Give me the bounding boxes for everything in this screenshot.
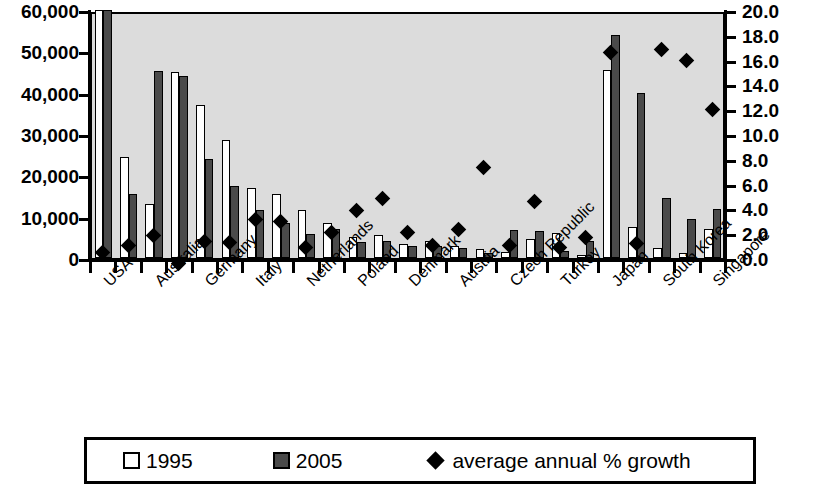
bar-2005-3 <box>179 76 188 258</box>
legend-item-2005: 2005 <box>273 449 343 473</box>
y-tick-label-left: 60,000 <box>21 2 79 21</box>
y-tick-label-right: 6.0 <box>742 176 768 195</box>
category-label-italy: Italy <box>253 257 285 289</box>
x-tick <box>445 262 448 273</box>
y-tick-label-right: 12.0 <box>742 101 779 120</box>
bar-2005-12 <box>408 246 417 258</box>
x-tick <box>394 262 397 273</box>
x-tick <box>140 262 143 273</box>
white-square-icon <box>123 452 140 469</box>
y-tick-left <box>79 176 91 179</box>
x-tick <box>699 262 702 273</box>
x-tick <box>292 262 295 273</box>
bar-1995-20 <box>603 70 612 258</box>
chart-root: 010,00020,00030,00040,00050,00060,000 0.… <box>0 0 839 491</box>
black-diamond-icon <box>427 451 445 469</box>
y-tick-label-right: 10.0 <box>742 126 779 145</box>
y-tick-right <box>724 160 736 163</box>
bar-1995-22 <box>653 248 662 258</box>
bar-1995-0 <box>95 10 104 258</box>
y-tick-right <box>724 110 736 113</box>
x-tick <box>241 262 244 273</box>
y-tick-right <box>724 36 736 39</box>
y-tick-left <box>79 52 91 55</box>
x-tick <box>495 262 498 273</box>
x-tick <box>546 262 549 273</box>
x-tick <box>343 262 346 273</box>
y-tick-label-right: 18.0 <box>742 27 779 46</box>
bar-2005-14 <box>459 248 468 258</box>
y-tick-right <box>724 11 736 14</box>
y-tick-left <box>79 94 91 97</box>
y-tick-label-left: 40,000 <box>21 85 79 104</box>
bar-2005-0 <box>103 10 112 258</box>
x-tick <box>191 262 194 273</box>
y-tick-label-left: 0 <box>68 250 79 269</box>
bar-1995-12 <box>399 244 408 258</box>
plot-area <box>90 12 725 260</box>
legend-item-growth: average annual % growth <box>426 449 690 473</box>
legend-item-1995: 1995 <box>123 449 193 473</box>
bar-2005-21 <box>637 93 646 258</box>
y-tick-right <box>724 185 736 188</box>
y-tick-left <box>79 11 91 14</box>
y-tick-label-right: 16.0 <box>742 52 779 71</box>
x-tick <box>597 262 600 273</box>
legend-label-1995: 1995 <box>146 449 193 473</box>
bar-2005-22 <box>662 198 671 258</box>
plot-inner <box>92 14 723 258</box>
y-tick-left <box>79 218 91 221</box>
y-tick-right <box>724 61 736 64</box>
y-tick-label-right: 8.0 <box>742 151 768 170</box>
y-tick-label-right: 20.0 <box>742 2 779 21</box>
x-tick <box>89 262 92 273</box>
y-tick-label-right: 4.0 <box>742 200 768 219</box>
bar-2005-7 <box>281 223 290 258</box>
x-tick <box>648 262 651 273</box>
legend-label-2005: 2005 <box>296 449 343 473</box>
y-tick-left <box>79 135 91 138</box>
y-tick-label-right: 14.0 <box>742 76 779 95</box>
y-tick-label-left: 30,000 <box>21 126 79 145</box>
y-tick-right <box>724 85 736 88</box>
y-tick-label-left: 20,000 <box>21 167 79 186</box>
dark-square-icon <box>273 452 290 469</box>
bar-2005-20 <box>611 35 620 258</box>
y-tick-right <box>724 135 736 138</box>
bar-1995-3 <box>171 72 180 258</box>
y-tick-right <box>724 209 736 212</box>
legend-label-growth: average annual % growth <box>452 449 690 473</box>
y-tick-label-left: 10,000 <box>21 209 79 228</box>
y-tick-label-left: 50,000 <box>21 43 79 62</box>
chart-legend: 1995 2005 average annual % growth <box>84 437 756 484</box>
